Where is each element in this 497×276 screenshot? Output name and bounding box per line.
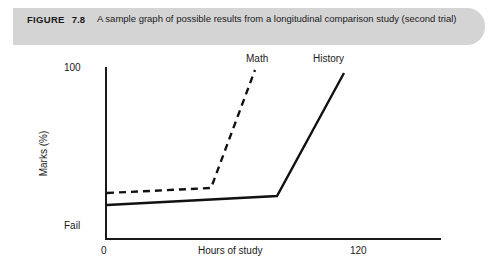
y-axis-tick-fail: Fail [64, 220, 80, 231]
y-axis-title: Marks (%) [38, 109, 49, 199]
x-axis-title: Hours of study [198, 245, 262, 256]
series-line-math [107, 70, 255, 193]
series-label-math: Math [246, 53, 268, 64]
caption-figure-word: FIGURE [27, 13, 65, 25]
caption-figure-number: 7.8 [72, 13, 85, 25]
series-label-history: History [313, 53, 344, 64]
y-axis-tick-100: 100 [64, 62, 81, 73]
series-line-history [107, 73, 344, 205]
figure-caption-bar: FIGURE 7.8 A sample graph of possible re… [13, 8, 485, 45]
caption-row: FIGURE 7.8 A sample graph of possible re… [27, 13, 471, 26]
chart-plot-svg [0, 45, 497, 276]
caption-text: A sample graph of possible results from … [97, 13, 457, 26]
x-axis-tick-120: 120 [350, 245, 367, 256]
x-axis-tick-0: 0 [101, 245, 107, 256]
figure-chart: 100 Fail 0 120 Hours of study Marks (%) … [0, 45, 497, 276]
